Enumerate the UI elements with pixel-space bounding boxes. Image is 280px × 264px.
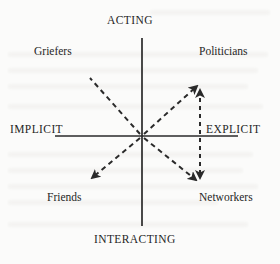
quadrant-label-networkers: Networkers — [199, 191, 253, 203]
arrow-center-to-upper-left — [90, 78, 140, 134]
quadrant-label-friends: Friends — [47, 191, 82, 203]
axis-label-acting: ACTING — [107, 14, 153, 26]
axis-label-interacting: INTERACTING — [94, 233, 176, 245]
axis-label-implicit: IMPLICIT — [10, 123, 63, 135]
axis-label-explicit: EXPLICIT — [206, 123, 260, 135]
arrow-center-to-upper-right — [144, 86, 197, 134]
arrow-center-to-lower-right — [144, 138, 196, 180]
quadrant-label-politicians: Politicians — [199, 45, 248, 57]
diagram-canvas: ACTING INTERACTING IMPLICIT EXPLICIT Gri… — [0, 0, 280, 264]
arrow-center-to-lower-left — [92, 138, 140, 178]
quadrant-label-griefers: Griefers — [34, 45, 72, 57]
